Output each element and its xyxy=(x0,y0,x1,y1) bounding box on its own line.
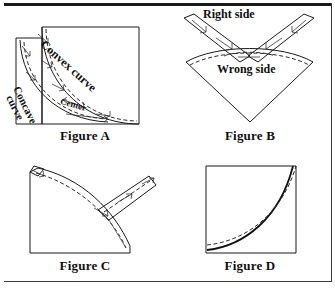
frame-bottom-rule xyxy=(4,281,332,282)
figure-c-caption: Figure C xyxy=(10,258,160,274)
figure-b-caption: Figure B xyxy=(175,128,325,144)
right-side-label: Right side xyxy=(203,7,255,22)
figure-d-caption: Figure D xyxy=(175,258,325,274)
figure-c-drawing xyxy=(14,158,164,258)
wrong-side-label: Wrong side xyxy=(217,62,276,77)
frame-top-rule xyxy=(4,3,332,6)
figure-a-caption: Figure A xyxy=(10,128,160,144)
figure-d-drawing xyxy=(196,158,306,258)
instruction-plate: Convex curve Concave curve Center Figure… xyxy=(0,0,335,293)
frame-right-rule xyxy=(331,3,332,282)
